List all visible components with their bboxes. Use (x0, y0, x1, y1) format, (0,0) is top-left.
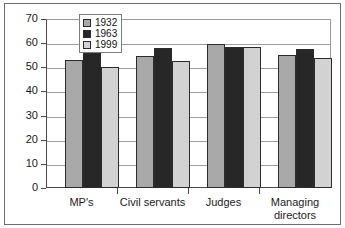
y-axis-tick-label: 40 (0, 85, 38, 96)
bar-civil-servants-1999[interactable] (172, 61, 190, 188)
y-axis-tick-label: 20 (0, 134, 38, 145)
y-axis-tick-label: 60 (0, 37, 38, 48)
legend-item-1932[interactable]: 1932 (83, 17, 117, 28)
x-axis-tick (259, 188, 260, 194)
bar-mps-1999[interactable] (101, 67, 119, 188)
legend-label: 1932 (95, 17, 117, 28)
x-axis-tick (117, 188, 118, 194)
bar-mps-1932[interactable] (65, 60, 83, 188)
bar-judges-1932[interactable] (207, 44, 225, 188)
y-axis-tick-label: 10 (0, 158, 38, 169)
y-axis-tick (41, 188, 46, 189)
chart-figure: 70 60 50 40 30 20 10 0 (0, 0, 345, 228)
legend-swatch-icon (83, 41, 91, 49)
legend-swatch-icon (83, 30, 91, 38)
bar-judges-1999[interactable] (243, 47, 261, 188)
x-axis-tick (188, 188, 189, 194)
x-axis-label-judges: Judges (188, 196, 259, 209)
y-axis-tick-label: 50 (0, 61, 38, 72)
legend-label: 1963 (95, 28, 117, 39)
legend-swatch-icon (83, 19, 91, 27)
legend-item-1999[interactable]: 1999 (83, 39, 117, 50)
y-axis-tick-label: 0 (0, 182, 38, 193)
bar-civil-servants-1963[interactable] (154, 48, 172, 188)
legend: 1932 1963 1999 (79, 14, 122, 53)
x-axis-label-managing-directors: Managing directors (259, 196, 331, 222)
bar-managing-directors-1932[interactable] (278, 55, 296, 188)
bar-mps-1963[interactable] (83, 53, 101, 188)
y-axis-tick-label: 30 (0, 110, 38, 121)
legend-label: 1999 (95, 39, 117, 50)
x-axis-label-mps: MP's (46, 196, 117, 209)
x-axis-label-civil-servants: Civil servants (117, 196, 188, 209)
bar-managing-directors-1963[interactable] (296, 49, 314, 188)
bar-judges-1963[interactable] (225, 47, 243, 188)
bar-civil-servants-1932[interactable] (136, 56, 154, 188)
legend-item-1963[interactable]: 1963 (83, 28, 117, 39)
y-axis-tick-label: 70 (0, 13, 38, 24)
bar-managing-directors-1999[interactable] (314, 58, 332, 188)
